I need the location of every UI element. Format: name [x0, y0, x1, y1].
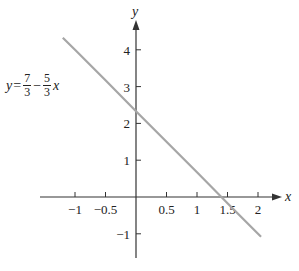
y-axis [133, 20, 140, 258]
equation-minus: − [33, 78, 41, 94]
fraction-denominator: 3 [24, 86, 30, 99]
equation-lhs: y [6, 78, 12, 94]
equation-var: x [53, 78, 59, 94]
y-tick-label: 3 [124, 80, 131, 95]
y-tick-label: 4 [124, 43, 131, 58]
x-tick-label: −1 [68, 202, 82, 217]
fraction-5-3: 5 3 [43, 72, 51, 99]
y-ticks: 4321−1 [116, 43, 141, 242]
x-ticks: −1−0.50.511.52 [68, 192, 261, 217]
y-tick-label: 2 [124, 116, 131, 131]
x-tick-label: −0.5 [94, 202, 118, 217]
fraction-numerator: 5 [43, 72, 51, 86]
x-tick-label: 1 [194, 202, 201, 217]
y-tick-label: 1 [124, 153, 131, 168]
fraction-denominator: 3 [44, 86, 50, 99]
fraction-7-3: 7 3 [23, 72, 31, 99]
chart-canvas: −1−0.50.511.52 4321−1 x y [0, 0, 299, 271]
x-tick-label: 0.5 [158, 202, 174, 217]
x-axis-label: x [284, 189, 292, 204]
equation-equals: = [13, 78, 21, 94]
x-axis [40, 194, 282, 201]
x-tick-label: 2 [255, 202, 262, 217]
equation-annotation: y = 7 3 − 5 3 x [6, 72, 59, 99]
y-axis-label: y [130, 4, 139, 19]
y-axis-arrow-icon [133, 20, 140, 30]
y-tick-label: −1 [116, 227, 130, 242]
x-axis-arrow-icon [272, 194, 282, 201]
fraction-numerator: 7 [23, 72, 31, 86]
